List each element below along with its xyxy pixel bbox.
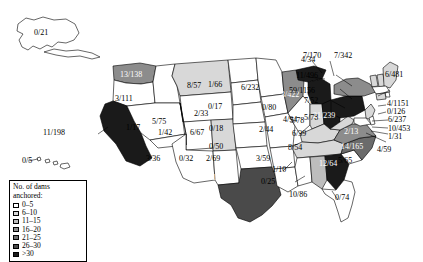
legend-swatch-2 (13, 219, 19, 224)
legend: No. of dams anchored: 0–5 6–10 11–15 16–… (9, 180, 87, 262)
state-label-CA: 11/198 (43, 129, 65, 137)
state-label-VT: 7/170 (303, 52, 321, 60)
state-label-PA: 59/1156 (289, 87, 315, 95)
state-label-OH: 21/239 (313, 112, 335, 120)
legend-title-line2: anchored: (13, 192, 83, 201)
state-label-AR: 3/59 (256, 155, 270, 163)
state-label-OR: 3/111 (115, 95, 133, 103)
state-shape-CT[interactable] (376, 93, 386, 100)
state-label-WA: 13/138 (120, 71, 142, 79)
legend-label-6: >30 (22, 250, 34, 258)
state-label-MT: 8/57 (187, 82, 201, 90)
state-label-AL: 10/86 (289, 191, 307, 199)
state-shape-NY[interactable] (334, 78, 376, 96)
state-label-NE: 0/18 (209, 125, 223, 133)
legend-swatch-0 (13, 203, 19, 208)
state-label-SC: 5/65 (338, 157, 352, 165)
legend-bin-list: 0–5 6–10 11–15 16–20 21–25 26–30 (13, 201, 83, 258)
state-label-DE: 1/31 (388, 133, 402, 141)
state-label-TX: 12/246 (212, 174, 234, 182)
legend-swatch-4 (13, 235, 19, 240)
state-label-MS: 1/10 (272, 166, 286, 174)
legend-swatch-3 (13, 227, 19, 232)
legend-swatch-5 (13, 244, 19, 249)
state-label-VA: 2/13 (344, 128, 358, 136)
state-shape-MT[interactable] (172, 60, 231, 96)
state-label-WV: 5/78 (290, 117, 304, 125)
state-shape-ND[interactable] (228, 58, 258, 83)
state-label-MO: 2/44 (259, 126, 273, 134)
state-label-TN: 8/54 (288, 144, 302, 152)
state-label-ND: 1/66 (208, 81, 222, 89)
state-label-MA2: 7/52 (304, 97, 318, 105)
state-label-NM: 0/32 (179, 155, 193, 163)
state-label-UT: 1/42 (158, 129, 172, 137)
state-label-ID: 5/75 (152, 118, 166, 126)
state-label-NC: 14/165 (341, 143, 363, 151)
state-label-IA: 0/80 (262, 104, 276, 112)
state-shape-NE[interactable] (233, 102, 265, 124)
state-label-CO: 6/67 (190, 129, 204, 137)
state-label-NY: 11/496 (296, 72, 318, 80)
state-shape-AK-tail (44, 49, 100, 59)
state-label-KS: 0/50 (209, 143, 223, 151)
state-label-KY: 6/39 (292, 130, 306, 138)
state-label-LA: 0/25 (261, 178, 275, 186)
state-label-MD: 4/59 (377, 146, 391, 154)
state-label-MN: 6/232 (241, 84, 259, 92)
dam-anchoring-choropleth-map: 0/21 0/5 13/138 3/111 11/198 5/75 1/17 8… (0, 0, 423, 262)
state-label-AK: 0/21 (34, 29, 48, 37)
state-label-ME: 6/481 (385, 71, 403, 79)
state-label-HI: 0/5 (22, 157, 32, 165)
state-label-FL: 0/74 (335, 194, 349, 202)
legend-swatch-6 (13, 252, 19, 257)
state-label-OK: 2/69 (206, 155, 220, 163)
state-label-WY: 2/33 (194, 110, 208, 118)
state-label-SD: 0/17 (208, 103, 222, 111)
state-label-NH: 7/342 (334, 52, 352, 60)
state-label-GA: 12/64 (319, 160, 337, 168)
state-shape-MN[interactable] (256, 58, 284, 97)
state-shape-PA[interactable] (331, 96, 365, 118)
state-shape-MS[interactable] (295, 157, 312, 186)
state-label-CT: 6/237 (388, 116, 406, 124)
legend-item[interactable]: >30 (13, 250, 83, 258)
legend-swatch-1 (13, 211, 19, 216)
state-shape-HI[interactable] (37, 157, 70, 169)
state-label-NV: 1/17 (126, 124, 140, 132)
state-label-AZ: 3/36 (146, 155, 160, 163)
